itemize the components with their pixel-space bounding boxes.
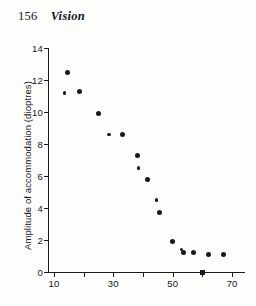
y-axis-line [48,48,49,273]
x-tick [84,273,85,277]
page-number: 156 [18,9,38,23]
x-axis-line [48,272,245,273]
y-tick [44,144,48,145]
y-axis-title: Amplitude of accommodation (dioptres) [22,76,33,256]
x-tick [143,273,144,277]
data-point [181,250,186,255]
data-point [137,166,141,170]
x-tick [232,273,233,277]
y-tick [44,208,48,209]
y-tick [44,240,48,241]
chapter-title: Vision [51,9,85,23]
y-tick-label: 12 [32,75,43,86]
x-tick [113,273,114,277]
y-tick [44,272,48,273]
book-page: 156Vision 02468101214 10305070 Age (year… [0,0,256,306]
x-tick-label: 10 [48,278,59,289]
y-tick [44,112,48,113]
y-tick-label: 2 [38,235,43,246]
y-tick-label: 10 [32,107,43,118]
data-point [200,270,205,275]
y-tick-label: 6 [38,171,43,182]
y-tick [44,176,48,177]
y-tick [44,80,48,81]
data-point [96,111,101,116]
x-tick-label: 70 [227,278,238,289]
data-point [135,153,140,158]
data-point [206,252,211,257]
x-tick [54,273,55,277]
running-head: 156Vision [18,9,85,24]
data-point [107,133,111,137]
data-point [77,89,82,94]
y-tick-label: 0 [38,267,43,278]
data-point [65,70,70,75]
y-tick [44,48,48,49]
y-tick-label: 8 [38,139,43,150]
data-point [145,177,150,182]
x-tick-label: 50 [167,278,178,289]
y-tick-label: 14 [32,43,43,54]
data-point [157,210,162,215]
plot-area: 02468101214 10305070 [48,48,244,272]
figure-scatter-plot: 02468101214 10305070 Age (years) Amplitu… [0,34,256,306]
data-point [120,132,125,137]
data-point [191,250,196,255]
x-tick-label: 30 [108,278,119,289]
data-point [63,91,67,95]
data-point [221,252,226,257]
data-point [155,198,159,202]
y-tick-label: 4 [38,203,43,214]
data-point [170,239,175,244]
x-tick [173,273,174,277]
